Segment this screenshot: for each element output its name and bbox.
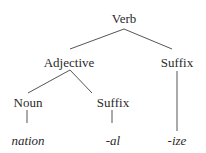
node-suffix-right: Suffix [161,56,193,69]
morphology-tree: Verb Adjective Suffix Noun Suffix nation… [0,0,206,153]
node-verb: Verb [112,12,137,25]
node-suffix-middle: Suffix [97,96,129,109]
leaf-ize: -ize [168,134,187,147]
tree-edges [0,0,206,153]
edge-verb-to-adjective [70,29,124,49]
node-adjective: Adjective [44,56,95,69]
edge-verb-to-suffix-ize-node [124,29,172,49]
edge-adjective-to-noun [28,70,70,93]
leaf-al: -al [106,134,120,147]
node-noun: Noun [14,96,43,109]
leaf-nation: nation [11,134,44,147]
edge-adjective-to-suffix-al-node [70,70,92,93]
